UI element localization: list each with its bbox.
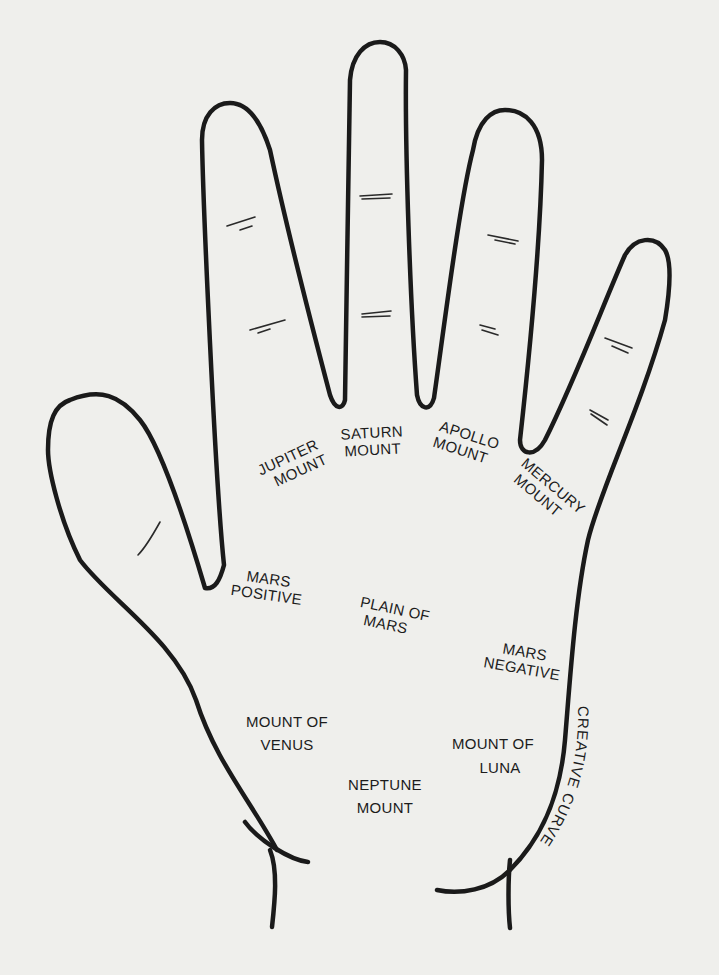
paper-background bbox=[0, 0, 719, 975]
svg-text:MOUNT OF: MOUNT OF bbox=[452, 735, 534, 752]
svg-text:VENUS: VENUS bbox=[260, 736, 313, 753]
svg-text:NEPTUNE: NEPTUNE bbox=[348, 776, 422, 793]
label-saturn-mount: SATURN MOUNT bbox=[340, 422, 404, 459]
svg-text:MOUNT: MOUNT bbox=[344, 440, 401, 460]
wrist-line-right bbox=[509, 860, 511, 928]
svg-text:MOUNT: MOUNT bbox=[357, 799, 414, 816]
svg-text:MOUNT OF: MOUNT OF bbox=[246, 713, 328, 730]
svg-text:LUNA: LUNA bbox=[479, 759, 520, 776]
hand-diagram: JUPITER MOUNT SATURN MOUNT APOLLO MOUNT … bbox=[0, 0, 719, 975]
